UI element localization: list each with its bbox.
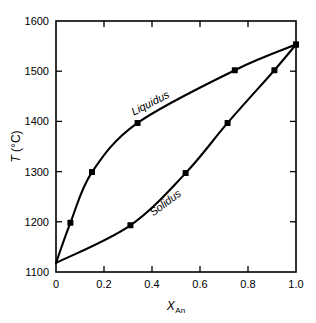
y-tick-label-1200: 1200 bbox=[25, 216, 49, 228]
data-point-marker bbox=[67, 220, 73, 226]
x-tick-label-0_6: 0.6 bbox=[192, 278, 207, 290]
y-tick-label-1100: 1100 bbox=[25, 266, 49, 278]
y-tick-label-1500: 1500 bbox=[25, 65, 49, 77]
data-point-marker bbox=[135, 120, 141, 126]
x-axis-title-base: X bbox=[166, 299, 176, 313]
x-tick-label-0_4: 0.4 bbox=[144, 278, 159, 290]
x-tick-label-0: 0 bbox=[53, 278, 59, 290]
y-tick-label-1400: 1400 bbox=[25, 115, 49, 127]
y-axis-title: T (°C) bbox=[9, 130, 23, 162]
data-point-marker bbox=[183, 170, 189, 176]
phase-diagram-figure: 11001200130014001500160000.20.40.60.81.0… bbox=[0, 0, 316, 323]
y-axis-title-unit: (°C) bbox=[9, 130, 23, 155]
data-point-marker bbox=[89, 169, 95, 175]
data-point-marker bbox=[232, 67, 238, 73]
y-tick-label-1600: 1600 bbox=[25, 15, 49, 27]
data-point-marker bbox=[127, 222, 133, 228]
plot-canvas: 11001200130014001500160000.20.40.60.81.0… bbox=[0, 0, 316, 323]
data-point-marker bbox=[225, 120, 231, 126]
x-axis-title-subscript: An bbox=[175, 306, 185, 315]
x-tick-label-0_2: 0.2 bbox=[96, 278, 111, 290]
data-point-marker bbox=[293, 42, 299, 48]
y-tick-label-1300: 1300 bbox=[25, 166, 49, 178]
x-axis-title: XAn bbox=[166, 299, 185, 315]
data-point-marker bbox=[271, 67, 277, 73]
x-tick-label-0_8: 0.8 bbox=[240, 278, 255, 290]
x-tick-label-1: 1.0 bbox=[288, 278, 303, 290]
